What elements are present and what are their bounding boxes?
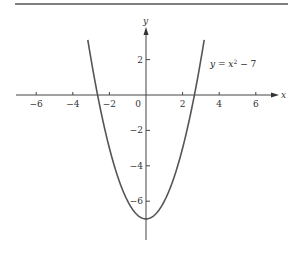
x-tick-label: −4 [66,99,80,109]
y-tick-label: −4 [130,161,144,171]
x-axis-arrow-icon [271,93,279,98]
y-tick-label: −6 [130,196,144,206]
x-tick-label: −6 [30,99,44,109]
x-tick-label: 0 [135,99,141,109]
y-tick-label: −2 [130,125,143,135]
x-tick-label: 4 [216,99,222,109]
x-tick-label: 2 [180,99,186,109]
x-tick-label: −2 [103,99,116,109]
y-tick-label: 2 [137,55,143,65]
parabola-chart: −6−4−202462−2−4−6 x y y = x2 − 7 [0,0,303,253]
y-axis-arrow-icon [144,27,149,35]
equation-annotation: y = x2 − 7 [209,58,257,69]
y-axis-label: y [142,16,149,26]
x-tick-label: 6 [253,99,259,109]
x-axis-label: x [281,90,286,100]
